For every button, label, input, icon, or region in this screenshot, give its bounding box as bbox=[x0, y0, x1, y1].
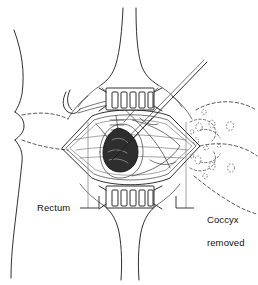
label-coccyx-line2: removed bbox=[207, 237, 245, 248]
lower-retractor bbox=[99, 186, 162, 209]
gluteal-cleft-lower bbox=[103, 205, 157, 280]
skin-crease-lines bbox=[22, 113, 68, 150]
coccyx-defect-region bbox=[190, 102, 257, 214]
gluteal-cleft-upper bbox=[101, 8, 158, 85]
label-coccyx-line1: Coccyx bbox=[207, 214, 239, 225]
label-coccyx-removed: Coccyx removed bbox=[196, 202, 245, 260]
label-rectum: Rectum bbox=[37, 202, 70, 214]
body-outline bbox=[11, 30, 24, 278]
upper-retractor bbox=[99, 88, 162, 111]
leader-line-rectum bbox=[80, 122, 99, 208]
surgical-illustration-figure: Rectum Coccyx removed bbox=[0, 0, 258, 285]
